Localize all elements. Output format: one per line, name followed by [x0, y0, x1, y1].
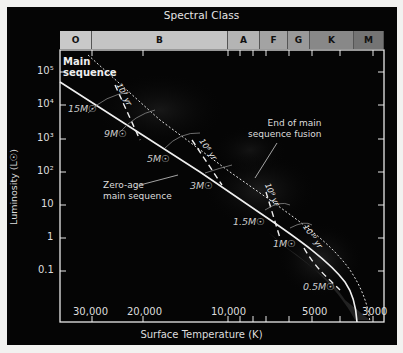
- mass-label: 0.5M☉: [303, 281, 335, 292]
- end-of-main-sequence-label: End of main sequence fusion: [248, 118, 322, 140]
- x-tick-label: 30,000: [73, 306, 108, 317]
- y-tick-label: 10³: [37, 132, 54, 143]
- zams-label-line2: main sequence: [103, 191, 172, 202]
- main-sequence-label-line1: Main: [63, 56, 117, 67]
- main-sequence-label-line2: sequence: [63, 67, 117, 78]
- mass-label: 9M☉: [104, 128, 127, 139]
- x-tick-label: 10,000: [211, 306, 246, 317]
- y-tick-label: 10: [41, 198, 54, 209]
- mass-label: 15M☉: [68, 103, 97, 114]
- mass-label: 1M☉: [273, 238, 296, 249]
- y-tick-label: 10⁴: [37, 98, 54, 109]
- mass-label: 3M☉: [190, 180, 213, 191]
- end-label-line1: End of main: [248, 118, 322, 129]
- main-sequence-label: Main sequence: [63, 56, 117, 78]
- x-axis-label: Surface Temperature (K): [0, 329, 403, 340]
- y-axis-label: Luminosity (L☉): [8, 149, 19, 225]
- x-tick-label: 5000: [302, 306, 327, 317]
- y-tick-label: 0.1: [38, 264, 54, 275]
- y-tick-label: 10²: [37, 165, 54, 176]
- end-label-line2: sequence fusion: [248, 129, 322, 140]
- x-tick-label: 20,000: [127, 306, 162, 317]
- y-tick-label: 1: [47, 231, 53, 242]
- y-tick-label: 10⁵: [37, 65, 54, 76]
- mass-label: 5M☉: [147, 153, 170, 164]
- x-tick-label: 3000: [362, 306, 387, 317]
- hr-diagram-plot: [0, 0, 403, 353]
- mass-label: 1.5M☉: [233, 216, 265, 227]
- zams-label-line1: Zero-age: [103, 180, 172, 191]
- zero-age-main-sequence-label: Zero-age main sequence: [103, 180, 172, 202]
